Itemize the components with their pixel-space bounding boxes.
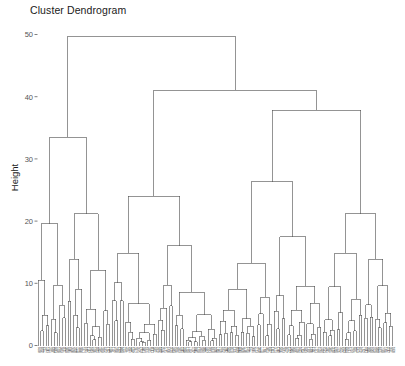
cluster-dendrogram-plot: Cluster Dendrogram Height 01020304050 66… [0, 0, 405, 366]
y-tick-label: 20 [25, 217, 33, 226]
dendrogram-canvas: 01020304050 6609829271445183311563876073… [0, 0, 405, 366]
y-tick-label: 40 [25, 93, 33, 102]
leaf-label-group: 6609829271445183311563876073510998639424… [37, 347, 395, 353]
leaf-label: 4650 [320, 347, 324, 353]
dendrogram-links [38, 36, 392, 345]
y-tick-label: 10 [25, 279, 33, 288]
y-tick-label: 50 [25, 30, 33, 39]
leaf-label: 1828 [391, 347, 395, 353]
y-tick-label: 30 [25, 155, 33, 164]
y-axis-ticks: 01020304050 [25, 30, 38, 350]
y-tick-label: 0 [29, 341, 33, 350]
